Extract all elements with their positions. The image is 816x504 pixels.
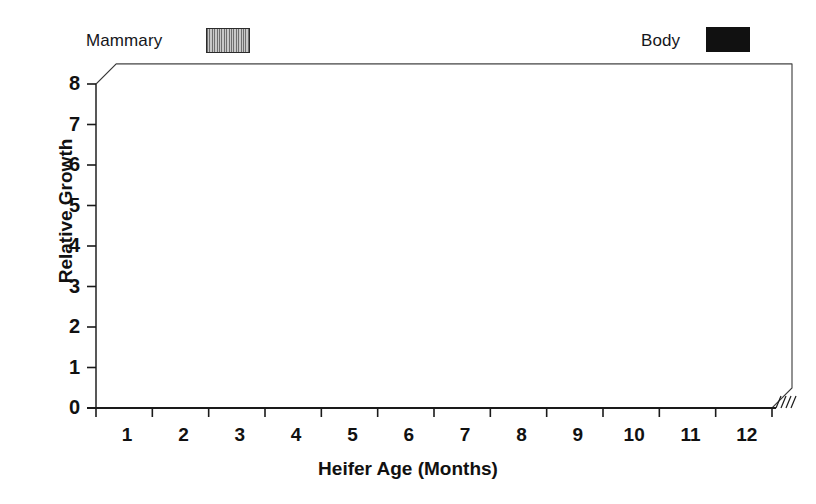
chart-page: Mammary Body Relative Growth Heifer Age … <box>0 0 816 504</box>
x-tick-label: 2 <box>164 424 204 446</box>
y-tick-label: 3 <box>54 275 80 298</box>
x-tick-label: 12 <box>727 424 767 446</box>
x-tick-label: 6 <box>389 424 429 446</box>
x-tick-label: 4 <box>276 424 316 446</box>
y-tick-label: 2 <box>54 315 80 338</box>
y-tick-label: 6 <box>54 153 80 176</box>
axes <box>87 64 796 417</box>
x-tick-label: 3 <box>220 424 260 446</box>
x-tick-label: 9 <box>558 424 598 446</box>
y-tick-label: 8 <box>54 72 80 95</box>
y-tick-label: 0 <box>54 396 80 419</box>
x-tick-label: 11 <box>671 424 711 446</box>
y-tick-label: 1 <box>54 356 80 379</box>
x-tick-label: 5 <box>333 424 373 446</box>
y-tick-label: 7 <box>54 113 80 136</box>
x-tick-label: 1 <box>107 424 147 446</box>
x-tick-label: 10 <box>614 424 654 446</box>
x-tick-label: 7 <box>445 424 485 446</box>
x-tick-label: 8 <box>502 424 542 446</box>
y-tick-label: 4 <box>54 234 80 257</box>
y-tick-label: 5 <box>54 194 80 217</box>
